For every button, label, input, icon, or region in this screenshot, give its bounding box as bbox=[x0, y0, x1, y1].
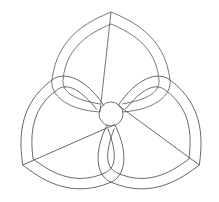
trefoil-diagram bbox=[0, 0, 219, 202]
lobe-top bbox=[52, 12, 170, 112]
center-circle bbox=[99, 102, 123, 126]
lobe-left bbox=[0, 64, 139, 202]
lobe-right bbox=[83, 64, 219, 202]
